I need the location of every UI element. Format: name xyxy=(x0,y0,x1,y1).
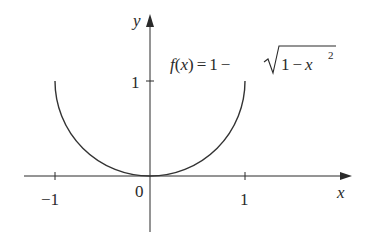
function-graph: y x −1 1 0 1 f(x)=1− 1−x 2 xyxy=(0,0,369,240)
svg-text:f(x)=1−: f(x)=1− xyxy=(170,55,230,74)
x-tick-label-1: 1 xyxy=(240,190,249,209)
x-axis-arrow-icon xyxy=(340,172,352,180)
function-annotation: f(x)=1− 1−x 2 xyxy=(170,46,336,74)
fn-radicand-minus: − xyxy=(293,55,303,74)
fn-equals: = xyxy=(197,55,207,74)
plot-canvas: y x −1 1 0 1 f(x)=1− 1−x 2 xyxy=(0,0,369,240)
y-tick-label-1: 1 xyxy=(131,73,140,92)
y-axis-label: y xyxy=(131,11,141,30)
x-axis-label: x xyxy=(336,183,345,202)
fn-close-paren: ) xyxy=(188,55,194,74)
fn-one: 1 xyxy=(209,55,218,74)
fn-radicand-x: x xyxy=(304,55,313,74)
x-tick-label-neg1: −1 xyxy=(41,190,59,209)
y-axis-arrow-icon xyxy=(146,14,154,27)
fn-minus: − xyxy=(221,55,231,74)
origin-label: 0 xyxy=(135,182,144,201)
svg-text:1−x: 1−x xyxy=(281,55,313,74)
fn-exponent: 2 xyxy=(328,49,334,61)
fn-radicand-one: 1 xyxy=(281,55,290,74)
